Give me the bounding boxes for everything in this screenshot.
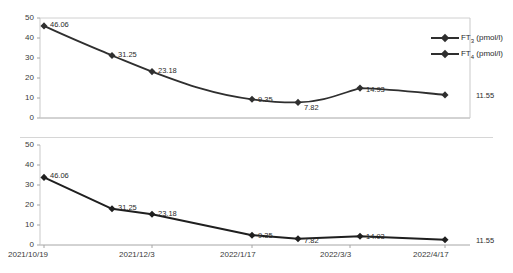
xtick-2022-4-17: 2022/4/17 [413, 250, 449, 259]
top-plot-area [0, 0, 513, 137]
bottom-data-label-6: 14.93 [366, 232, 385, 241]
top-ytick-0: 0 [6, 113, 34, 122]
legend-label-ft4: FT4 (pmol/l) [461, 49, 503, 60]
legend-key-ft4-icon [431, 49, 459, 59]
bottom-data-label-1: 46.06 [50, 171, 69, 180]
top-data-label-5: 7.82 [304, 103, 319, 112]
dual-line-chart-figure: 50 40 30 20 10 0 46.06 31.25 23.18 9.35 … [0, 0, 513, 273]
bottom-ytick-20: 20 [6, 200, 34, 209]
legend-item-ft4[interactable]: FT4 (pmol/l) [431, 46, 503, 62]
bottom-ytick-0: 0 [6, 240, 34, 249]
bottom-series-line-ft3 [44, 177, 445, 239]
bottom-data-label-7: 11.55 [476, 236, 494, 245]
top-data-label-2: 31.25 [118, 50, 137, 59]
top-series-markers [40, 22, 448, 106]
top-data-label-6: 14.93 [366, 85, 385, 94]
top-series-line-ft4 [44, 26, 445, 103]
top-ytick-30: 30 [6, 53, 34, 62]
top-ytick-50: 50 [6, 13, 34, 22]
top-data-label-1: 46.06 [50, 20, 69, 29]
bottom-data-label-4: 9.35 [258, 231, 273, 240]
top-data-label-4: 9.35 [258, 95, 273, 104]
legend-label-ft3: FT3 (pmol/l) [461, 33, 503, 44]
chart-panel-top: 50 40 30 20 10 0 46.06 31.25 23.18 9.35 … [0, 0, 513, 137]
bottom-ytick-40: 40 [6, 160, 34, 169]
legend-item-ft3[interactable]: FT3 (pmol/l) [431, 30, 503, 46]
top-ytick-40: 40 [6, 33, 34, 42]
xtick-2021-10-19: 2021/10/19 [8, 250, 48, 259]
top-data-label-3: 23.18 [158, 66, 177, 75]
legend-key-ft3-icon [431, 33, 459, 43]
bottom-ytick-50: 50 [6, 140, 34, 149]
bottom-data-label-3: 23.18 [158, 209, 177, 218]
xtick-2022-1-17: 2022/1/17 [220, 250, 256, 259]
bottom-ytick-10: 10 [6, 220, 34, 229]
xtick-2021-12-3: 2021/12/3 [119, 250, 155, 259]
bottom-data-label-5: 7.82 [304, 236, 319, 245]
chart-legend: FT3 (pmol/l) FT4 (pmol/l) [431, 30, 503, 62]
xtick-2022-3-3: 2022/3/3 [320, 250, 351, 259]
bottom-ytick-30: 30 [6, 180, 34, 189]
bottom-data-label-2: 31.25 [118, 203, 137, 212]
top-ytick-20: 20 [6, 73, 34, 82]
chart-panel-bottom: 50 40 30 20 10 0 46.06 31.25 23.18 9.35 … [0, 137, 513, 273]
top-data-label-7: 11.55 [476, 91, 494, 100]
top-ytick-10: 10 [6, 93, 34, 102]
